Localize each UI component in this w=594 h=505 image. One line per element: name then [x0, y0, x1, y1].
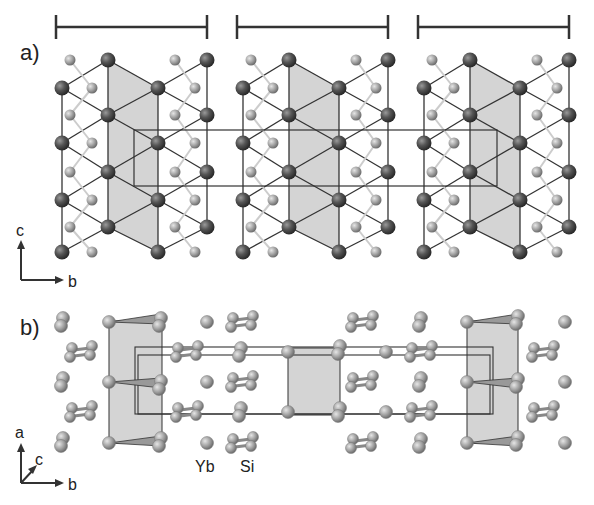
si-atom: [532, 55, 543, 66]
yb-atom: [101, 53, 116, 68]
si-atom: [532, 222, 543, 233]
yb-atom: [463, 165, 478, 180]
si-atom: [371, 138, 382, 149]
panel-b-label: b): [20, 315, 40, 340]
atom: [191, 410, 202, 421]
yb-atom: [562, 108, 577, 123]
atom: [246, 380, 257, 391]
si-atom: [87, 195, 98, 206]
yb-atom: [236, 193, 251, 208]
yb-atom: [101, 220, 116, 235]
si-atom: [552, 195, 563, 206]
yb-atom: [562, 165, 577, 180]
atom: [282, 406, 295, 419]
yb-atom: [381, 165, 396, 180]
yb-atom: [236, 245, 251, 260]
si-atom: [351, 222, 362, 233]
yb-atom: [332, 245, 347, 260]
atom: [233, 410, 246, 423]
yb-atom: [417, 245, 432, 260]
yb-atom: [200, 108, 215, 123]
yb-atom: [101, 165, 116, 180]
yb-atom: [55, 193, 70, 208]
panel-a-label: a): [20, 40, 40, 65]
atom: [103, 437, 116, 450]
si-atom: [246, 222, 257, 233]
scale-bar: [56, 15, 207, 39]
si-atom: [427, 110, 438, 121]
scale-bar: [237, 15, 388, 39]
axis-label-c: c: [16, 222, 24, 239]
si-atom: [449, 195, 460, 206]
si-atom: [190, 247, 201, 258]
atom: [425, 350, 436, 361]
si-atom: [246, 167, 257, 178]
atom: [461, 316, 474, 329]
atom: [153, 320, 166, 333]
si-atom: [65, 222, 76, 233]
axis-label-b: b: [68, 273, 77, 290]
si-atom: [87, 83, 98, 94]
atom: [366, 441, 377, 452]
atom: [413, 320, 426, 333]
si-atom: [427, 222, 438, 233]
atom: [547, 350, 558, 361]
atom: [246, 441, 257, 452]
atom: [346, 322, 357, 333]
si-atom: [190, 138, 201, 149]
atom: [461, 437, 474, 450]
atom: [201, 376, 214, 389]
si-atom: [268, 195, 279, 206]
atom: [226, 382, 237, 393]
si-atom: [190, 195, 201, 206]
yb-atom: [381, 108, 396, 123]
atom: [527, 352, 538, 363]
atom: [55, 380, 68, 393]
atom: [233, 350, 246, 363]
si-atom: [351, 110, 362, 121]
atom: [282, 346, 295, 359]
si-atom: [268, 138, 279, 149]
yb-atom: [463, 108, 478, 123]
yb-atom: [55, 81, 70, 96]
atom: [55, 440, 68, 453]
yb-atom: [151, 136, 166, 151]
yb-atom: [236, 81, 251, 96]
si-atom: [246, 55, 257, 66]
si-atom: [449, 83, 460, 94]
atom: [153, 440, 166, 453]
yb-atom: [236, 136, 251, 151]
si-atom: [170, 167, 181, 178]
si-atom: [532, 110, 543, 121]
atom: [527, 412, 538, 423]
yb-atom: [282, 108, 297, 123]
si-atom: [268, 83, 279, 94]
atom: [366, 380, 377, 391]
atom: [153, 383, 166, 396]
si-atom: [170, 110, 181, 121]
si-atom: [552, 138, 563, 149]
yb-atom: [513, 245, 528, 260]
atom: [366, 320, 377, 331]
yb-atom: [513, 193, 528, 208]
yb-atom: [417, 136, 432, 151]
si-atom: [351, 55, 362, 66]
atom: [413, 441, 426, 454]
yb-atom: [381, 220, 396, 235]
atom: [201, 437, 214, 450]
si-atom: [268, 247, 279, 258]
crystal-structure-figure: a) b) c b a c b Yb Si: [0, 0, 594, 505]
atom: [85, 410, 96, 421]
atom: [332, 410, 345, 423]
atom: [85, 350, 96, 361]
yb-atom: [513, 81, 528, 96]
si-atom: [87, 138, 98, 149]
atom: [559, 316, 572, 329]
si-atom: [552, 247, 563, 258]
yb-atom: [282, 165, 297, 180]
atom: [246, 320, 257, 331]
atom: [65, 352, 76, 363]
atom: [103, 376, 116, 389]
si-atom: [351, 167, 362, 178]
yb-atom: [332, 193, 347, 208]
